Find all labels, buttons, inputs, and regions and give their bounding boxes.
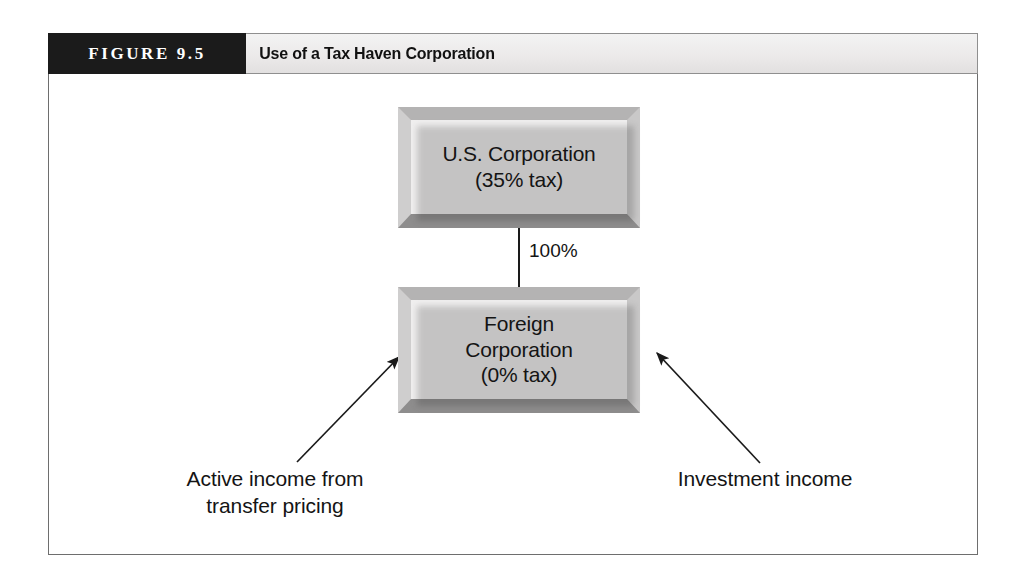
ownership-percent-label: 100% (529, 240, 578, 262)
caption-active-income: Active income from transfer pricing (135, 466, 415, 520)
node-foreign-corporation[interactable]: Foreign Corporation (0% tax) (398, 287, 640, 413)
arrow-investment-income (657, 353, 760, 463)
node-us-corporation[interactable]: U.S. Corporation (35% tax) (398, 107, 640, 228)
figure-title: Use of a Tax Haven Corporation (246, 44, 495, 64)
arrow-active-income (297, 357, 399, 462)
caption-investment-income: Investment income (625, 466, 905, 493)
figure-title-bar: Use of a Tax Haven Corporation (246, 33, 978, 74)
node-us-corporation-label: U.S. Corporation (35% tax) (442, 141, 595, 192)
node-foreign-corporation-label: Foreign Corporation (0% tax) (465, 311, 573, 388)
diagram-canvas: 100% U.S. Corporation (35% tax) Foreign … (49, 74, 977, 554)
figure-number-label: FIGURE 9.5 (88, 44, 206, 64)
figure-header: FIGURE 9.5 Use of a Tax Haven Corporatio… (48, 33, 978, 74)
ownership-connector-line (518, 228, 520, 287)
figure-number-box: FIGURE 9.5 (48, 33, 246, 74)
